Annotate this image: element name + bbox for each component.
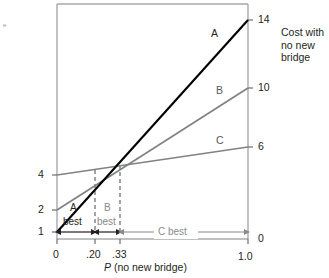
series-label-A: A	[211, 27, 218, 39]
annotation-c-best: C best	[158, 226, 187, 237]
x-tick-label-0: 0	[53, 249, 59, 260]
figure-container: e 14 10 6 0 4 2 1 0 .20 .33 1.0 A B C A …	[0, 0, 329, 278]
left-tick-label-2: 2	[38, 204, 44, 215]
x-tick-label-020: .20	[86, 249, 101, 260]
series-line-C	[57, 147, 248, 175]
left-tick-label-4: 4	[38, 169, 44, 180]
right-axis-note: Cost with no new bridge	[281, 26, 324, 64]
right-tick-label-6: 6	[258, 141, 264, 152]
right-tick-label-10: 10	[258, 82, 270, 93]
right-tick-label-0: 0	[258, 233, 264, 244]
plot-frame	[57, 4, 248, 239]
annotation-b-best-line1: B	[104, 202, 111, 213]
x-axis-ticks	[57, 239, 248, 244]
series-line-B	[57, 88, 248, 210]
series-label-B: B	[216, 84, 223, 96]
annotation-a-best-line2: best	[63, 216, 82, 227]
series-label-C: C	[216, 134, 224, 146]
right-tick-label-14: 14	[258, 14, 270, 25]
x-tick-label-033: .33	[112, 249, 127, 260]
left-tick-label-1: 1	[38, 226, 44, 237]
right-axis-ticks	[248, 20, 253, 147]
x-tick-label-10: 1.0	[238, 251, 253, 262]
annotation-b-best-line2: best	[97, 216, 116, 227]
series-line-A	[57, 20, 248, 232]
annotation-a-best-line1: A	[70, 202, 77, 213]
left-axis-ticks	[52, 175, 57, 232]
x-axis-title: P (no new bridge)	[104, 262, 187, 273]
corner-artifact-mark: e	[3, 22, 6, 28]
